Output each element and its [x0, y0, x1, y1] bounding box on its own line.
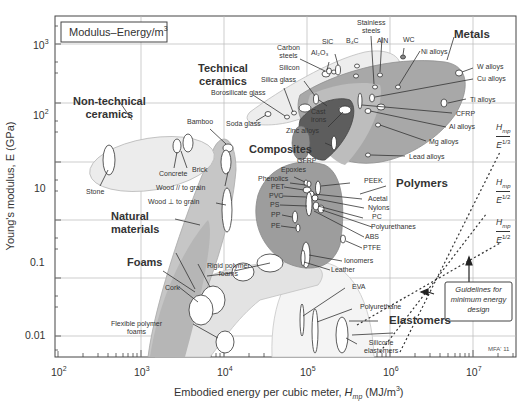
y-axis-label: Young's modulus, E (GPa): [4, 121, 16, 251]
label-gfrp: GFRP: [297, 157, 316, 164]
label-epoxies: Epoxies: [281, 166, 306, 173]
x-tick-1e4: 104: [217, 365, 233, 378]
chart-title: Modulus–Energy/m3: [69, 25, 168, 38]
credit-label: MFA' 11: [488, 346, 509, 352]
label-rigid-polymer-foams: Rigid polymerfoams: [207, 262, 250, 278]
family-elastomers: Elastomers: [389, 314, 451, 326]
y-tick-10: 10: [34, 182, 46, 194]
x-axis-label: Embodied energy per cubic meter, Hmp (MJ…: [174, 385, 403, 400]
guideline-formula-1: Hmp E1/3: [496, 122, 510, 150]
label-eva: EVA: [352, 283, 366, 290]
label-soda-glass: Soda glass: [226, 120, 261, 127]
family-natural-materials: Naturalmaterials: [111, 210, 159, 236]
family-non-technical-ceramics: Non-technicalceramics: [73, 95, 146, 121]
x-tick-1e5: 105: [300, 365, 316, 378]
label-al2o3: Al₂O₃: [311, 49, 328, 56]
label-wc: WC: [403, 36, 415, 43]
label-cast-irons: Castirons: [311, 108, 326, 124]
label-silicon: Silicon: [279, 64, 300, 71]
guidelines-box-text: Guidelines forminimum energydesign: [445, 285, 512, 315]
label-ni-alloys: Ni alloys: [421, 48, 447, 55]
label-flexible-polymer-foams: Flexible polymerfoams: [111, 320, 162, 336]
label-al-alloys: Al alloys: [449, 123, 475, 130]
label-ionomers: Ionomers: [344, 257, 373, 264]
label-lead-alloys: Lead alloys: [409, 153, 444, 160]
label-polyurethanes: Polyurethanes: [371, 223, 416, 230]
x-tick-1e7: 107: [466, 365, 482, 378]
label-cfrp: CFRP: [456, 110, 475, 117]
label-pvc: PVC: [269, 192, 283, 199]
family-technical-ceramics: Technicalceramics: [198, 62, 248, 88]
label-w-alloys: W alloys: [477, 63, 503, 70]
label-b4c: B₄C: [346, 37, 359, 44]
label-silicone-elastomers: Siliconeelastomers: [364, 339, 398, 355]
label-cork: Cork: [165, 284, 180, 291]
label-aln: AlN: [377, 37, 388, 44]
label-wood-perpendicular: Wood ⊥ to grain: [148, 198, 199, 206]
label-acetal: Acetal: [368, 195, 387, 202]
label-polyurethane: Polyurethane: [360, 303, 401, 310]
label-abs: ABS: [365, 233, 379, 240]
label-zinc-alloys: Zinc alloys: [286, 127, 319, 134]
x-tick-1e3: 103: [134, 365, 150, 378]
y-tick-0-1: 0.1: [30, 256, 45, 268]
label-sic: SiC: [322, 38, 333, 45]
label-mg-alloys: Mg alloys: [429, 138, 459, 145]
label-nylons: Nylons: [368, 204, 389, 211]
y-tick-0-01: 0.01: [25, 329, 45, 341]
label-brick: Brick: [192, 166, 208, 173]
x-tick-1e6: 106: [383, 365, 399, 378]
label-concrete: Concrete: [159, 170, 187, 177]
x-tick-1e2: 102: [51, 365, 67, 378]
guideline-formula-2: Hmp E1/2: [496, 177, 510, 205]
label-silica-glass: Silica glass: [261, 76, 296, 83]
family-foams: Foams: [127, 256, 162, 268]
label-borosilicate-glass: Borosilicate glass: [211, 89, 265, 96]
label-stone: Stone: [86, 188, 104, 195]
label-ptfe: PTFE: [363, 244, 381, 251]
guideline-formula-3: Hmp E1/2: [496, 217, 510, 245]
label-pc: PC: [372, 213, 382, 220]
label-cu-alloys: Cu alloys: [477, 75, 506, 82]
label-carbon-steels: Carbonsteels: [277, 44, 300, 60]
label-pet: PET: [271, 183, 285, 190]
label-pe: PE: [271, 222, 280, 229]
label-leather: Leather: [331, 266, 355, 273]
y-tick-100: 102: [33, 108, 49, 121]
family-polymers: Polymers: [396, 177, 448, 189]
family-composites: Composites: [249, 143, 312, 155]
label-stainless-steels: Stainlesssteels: [357, 19, 385, 35]
label-bamboo: Bamboo: [187, 118, 213, 125]
family-metals: Metals: [454, 28, 490, 40]
label-wood-parallel: Wood // to grain: [156, 184, 205, 191]
label-pp: PP: [271, 211, 280, 218]
label-ps: PS: [270, 201, 279, 208]
label-peek: PEEK: [364, 177, 383, 184]
y-tick-1000: 103: [33, 38, 49, 51]
label-ti-alloys: Ti alloys: [470, 96, 495, 103]
label-phenolics: Phenolics: [258, 175, 288, 182]
text-layer: Modulus–Energy/m3 103 102 10 0.1 0.01 10…: [0, 0, 529, 409]
